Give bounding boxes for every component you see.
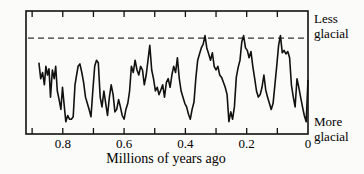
x-axis-ticks bbox=[32, 11, 277, 134]
x-tick-label: 0 bbox=[305, 136, 312, 151]
x-axis-title: Millions of years ago bbox=[106, 151, 225, 166]
x-tick-label: 0.8 bbox=[55, 136, 71, 151]
top-label-line2: glacial bbox=[314, 26, 349, 41]
top-label: Less glacial bbox=[314, 11, 349, 41]
x-axis-tick-labels: 0.80.60.40.20 bbox=[55, 136, 312, 151]
bottom-label: More glacial bbox=[314, 114, 349, 144]
top-label-line1: Less bbox=[314, 11, 338, 26]
x-tick-label: 0.4 bbox=[177, 136, 194, 151]
bottom-label-line2: glacial bbox=[314, 129, 349, 144]
glacial-cycles-chart: 0.80.60.40.20 Millions of years ago Less… bbox=[0, 0, 364, 174]
x-tick-label: 0.2 bbox=[239, 136, 255, 151]
glacial-index-line bbox=[39, 36, 308, 122]
x-tick-label: 0.6 bbox=[116, 136, 133, 151]
bottom-label-line1: More bbox=[314, 114, 342, 129]
